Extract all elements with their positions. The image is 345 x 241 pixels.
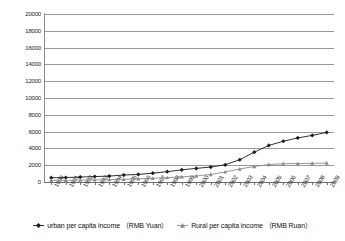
data-point-marker bbox=[136, 172, 140, 176]
data-point-marker bbox=[252, 150, 256, 154]
series-rural bbox=[49, 161, 329, 182]
data-point-marker bbox=[281, 139, 285, 143]
data-point-marker bbox=[267, 143, 271, 147]
series-layer bbox=[0, 0, 345, 241]
data-point-marker bbox=[107, 174, 111, 178]
data-point-marker bbox=[165, 170, 169, 174]
data-point-marker bbox=[310, 133, 314, 137]
series-line bbox=[51, 163, 327, 180]
income-line-chart: 2000018000160001400012000100008000600040… bbox=[0, 0, 345, 241]
data-point-marker bbox=[122, 173, 126, 177]
legend-label: urban per capita income （RMB Yuan） bbox=[47, 222, 168, 230]
legend-item[interactable]: Rural per capita income （RMB Ruan） bbox=[177, 221, 312, 230]
data-point-marker bbox=[209, 165, 213, 169]
data-point-marker bbox=[194, 166, 198, 170]
chart-legend: urban per capita income （RMB Yuan）Rural … bbox=[0, 221, 345, 230]
data-point-marker bbox=[223, 163, 227, 167]
data-point-marker bbox=[325, 130, 329, 134]
series-line bbox=[51, 132, 327, 177]
series-urban bbox=[49, 130, 329, 179]
diamond-marker-icon bbox=[33, 221, 44, 230]
data-point-marker bbox=[296, 136, 300, 140]
data-point-marker bbox=[180, 168, 184, 172]
legend-label: Rural per capita income （RMB Ruan） bbox=[191, 222, 312, 230]
data-point-marker bbox=[238, 158, 242, 162]
triangle-marker-icon bbox=[177, 221, 188, 230]
data-point-marker bbox=[36, 223, 41, 228]
data-point-marker bbox=[151, 171, 155, 175]
legend-item[interactable]: urban per capita income （RMB Yuan） bbox=[33, 221, 168, 230]
